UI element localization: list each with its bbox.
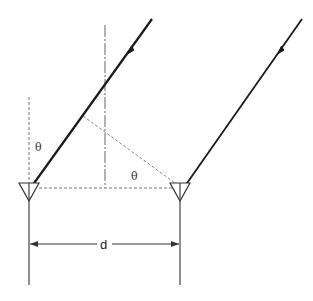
wavefront-dashed-line — [83, 116, 175, 183]
right-antenna-element — [170, 183, 190, 285]
spacing-label: d — [100, 237, 107, 252]
right-incident-ray — [185, 19, 302, 186]
theta-left-label: θ — [35, 141, 42, 154]
diagram-svg: θ θ d — [0, 0, 313, 301]
left-antenna-element — [19, 183, 39, 285]
left-incident-ray — [32, 19, 152, 186]
theta-right-label: θ — [131, 170, 138, 183]
antenna-array-diagram: θ θ d — [0, 0, 313, 301]
